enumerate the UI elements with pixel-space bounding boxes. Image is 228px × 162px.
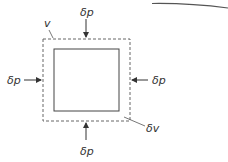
compressed-volume-boundary bbox=[54, 49, 119, 111]
left-pressure-label: δp bbox=[7, 74, 21, 87]
volume-leader-line bbox=[49, 30, 53, 38]
original-volume-boundary bbox=[43, 39, 130, 121]
right-pressure-label: δp bbox=[152, 74, 166, 87]
volume-label: v bbox=[44, 17, 51, 30]
top-pressure-label: δp bbox=[80, 6, 94, 19]
volume-change-label: δv bbox=[146, 122, 160, 135]
bottom-pressure-label: δp bbox=[80, 145, 94, 158]
edge-curve bbox=[152, 3, 228, 8]
compression-diagram: δp δp δp δp v δv bbox=[0, 0, 228, 162]
